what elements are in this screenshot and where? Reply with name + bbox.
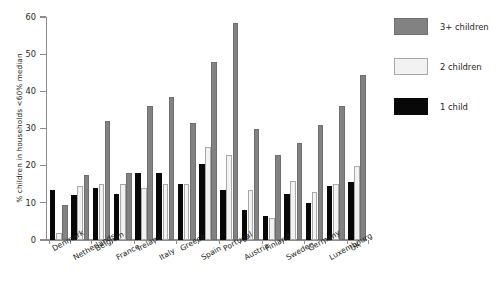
y-axis-line xyxy=(46,17,47,240)
bar xyxy=(297,143,303,240)
bar xyxy=(184,184,190,240)
bar xyxy=(135,173,141,240)
y-axis-tick xyxy=(40,202,46,203)
bar xyxy=(84,175,90,240)
x-axis-label: Italy xyxy=(158,246,177,261)
bar xyxy=(199,164,205,240)
x-axis-tick xyxy=(49,240,50,244)
bar xyxy=(169,97,175,240)
bar xyxy=(275,155,281,240)
bar xyxy=(141,188,147,240)
y-axis-tick xyxy=(40,165,46,166)
bar xyxy=(263,216,269,240)
y-axis-tick-label: 40 xyxy=(10,87,36,95)
bar xyxy=(290,181,296,240)
bar xyxy=(312,192,318,240)
y-axis-tick xyxy=(40,128,46,129)
bar xyxy=(190,123,196,240)
bar xyxy=(205,147,211,240)
x-axis-tick xyxy=(176,240,177,244)
bar xyxy=(99,184,105,240)
y-axis-tick-label: 30 xyxy=(10,124,36,132)
y-axis-tick xyxy=(40,91,46,92)
bar xyxy=(220,190,226,240)
bar xyxy=(105,121,111,240)
legend-label: 1 child xyxy=(440,102,468,112)
bar xyxy=(147,106,153,240)
bar xyxy=(50,190,56,240)
bar xyxy=(360,75,366,240)
bar xyxy=(269,218,275,240)
y-axis-tick-label: 60 xyxy=(10,13,36,21)
bar xyxy=(163,184,169,240)
x-axis-tick xyxy=(219,240,220,244)
grouped-bar-chart: % children in households <60% median 010… xyxy=(0,0,496,293)
bar xyxy=(318,125,324,240)
legend-swatch xyxy=(394,98,428,115)
bar xyxy=(348,182,354,240)
y-axis-tick xyxy=(40,54,46,55)
bar xyxy=(226,155,232,240)
y-axis-tick-label: 20 xyxy=(10,161,36,169)
y-axis-tick-label: 50 xyxy=(10,50,36,58)
y-axis-tick-label: 10 xyxy=(10,199,36,207)
bar xyxy=(156,173,162,240)
legend-label: 2 children xyxy=(440,62,482,72)
legend-swatch xyxy=(394,18,428,35)
bar xyxy=(354,166,360,240)
x-axis-label: Spain xyxy=(200,244,223,261)
bar xyxy=(233,23,239,240)
y-axis-tick-label: 0 xyxy=(10,236,36,244)
legend-label: 3+ children xyxy=(440,22,489,32)
bar xyxy=(339,106,345,240)
bar xyxy=(211,62,217,240)
bar xyxy=(178,184,184,240)
y-axis-tick xyxy=(40,16,46,17)
bar xyxy=(93,188,99,240)
legend-swatch xyxy=(394,58,428,75)
bar xyxy=(306,203,312,240)
bar xyxy=(254,129,260,241)
y-axis-tick xyxy=(40,239,46,240)
bar xyxy=(126,173,132,240)
